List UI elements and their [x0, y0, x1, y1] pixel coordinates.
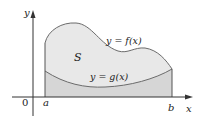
x-axis-arrow-icon [185, 95, 193, 100]
x-axis-label: x [186, 103, 192, 114]
y-axis-arrow-icon [31, 10, 36, 18]
diagram-canvas: y x 0 a b S y = f(x) y = g(x) [0, 0, 202, 123]
f-curve-label: y = f(x) [105, 35, 142, 46]
b-label: b [168, 102, 174, 113]
a-label: a [43, 97, 49, 108]
g-curve-label: y = g(x) [89, 71, 129, 82]
origin-label: 0 [22, 97, 28, 108]
y-axis-label: y [23, 7, 30, 18]
region-s-label: S [74, 51, 82, 64]
